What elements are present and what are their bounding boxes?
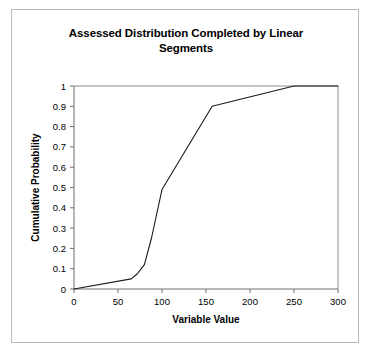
- x-tick-label: 100: [154, 296, 170, 307]
- chart-plot-area: 1 0.9 0.8 0.7 0.6 0.5 0.4 0.3 0.2 0.1 0 …: [12, 10, 360, 344]
- x-tick-label: 200: [242, 296, 258, 307]
- y-tick-label: 1: [61, 81, 66, 92]
- x-tick-label: 50: [113, 296, 124, 307]
- y-tick-label: 0.5: [53, 182, 66, 193]
- x-tick-label: 0: [71, 296, 76, 307]
- figure-frame: Assessed Distribution Completed by Linea…: [11, 9, 359, 343]
- y-tick-label: 0.3: [53, 223, 66, 234]
- x-axis-ticks: [74, 289, 338, 293]
- y-tick-label: 0.7: [53, 141, 66, 152]
- y-tick-label: 0.8: [53, 121, 66, 132]
- y-axis-title: Cumulative Probability: [30, 133, 41, 242]
- x-tick-label: 150: [198, 296, 214, 307]
- y-tick-label: 0.2: [53, 243, 66, 254]
- x-tick-label: 250: [286, 296, 302, 307]
- y-tick-label: 0: [61, 284, 66, 295]
- y-tick-label: 0.9: [53, 101, 66, 112]
- y-tick-label: 0.1: [53, 263, 66, 274]
- x-tick-label: 300: [330, 296, 346, 307]
- y-axis-ticks: [70, 86, 74, 289]
- cdf-line-series: [74, 86, 338, 289]
- y-tick-label: 0.4: [53, 202, 66, 213]
- x-axis-title: Variable Value: [172, 314, 240, 325]
- y-tick-label: 0.6: [53, 162, 66, 173]
